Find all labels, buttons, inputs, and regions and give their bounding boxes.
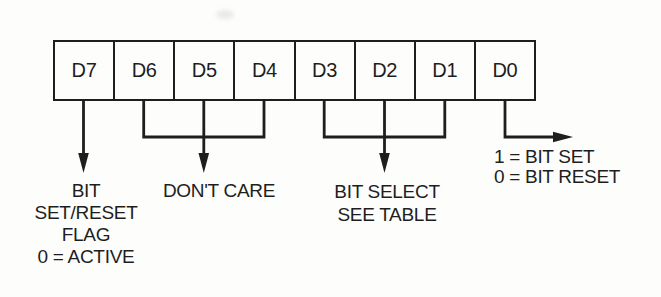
register-cell-d1: D1 — [416, 42, 476, 99]
bit-register-diagram: D7 D6 D5 D4 D3 D2 D1 D0 BIT SET/RESET FL… — [0, 0, 661, 297]
d7-arrowhead-icon — [78, 153, 89, 173]
bit-select-label: BIT SELECT SEE TABLE — [334, 180, 439, 226]
register-cell-d0: D0 — [476, 42, 534, 99]
bit-select-arrowhead-icon — [379, 153, 390, 173]
flag-label-line: BIT — [35, 180, 138, 202]
register-box: D7 D6 D5 D4 D3 D2 D1 D0 — [53, 40, 536, 101]
bit-select-label-line: BIT SELECT — [334, 180, 439, 203]
flag-label-line: FLAG — [35, 224, 138, 246]
dont-care-label-line: DON'T CARE — [163, 180, 275, 202]
bit-set-reset-flag-label: BIT SET/RESET FLAG 0 = ACTIVE — [35, 180, 138, 268]
register-cell-d3: D3 — [296, 42, 356, 99]
bit-value-legend: 1 = BIT SET 0 = BIT RESET — [494, 147, 620, 187]
dont-care-label: DON'T CARE — [163, 180, 275, 202]
scan-smudge-artifact — [216, 10, 234, 19]
bit-select-label-line: SEE TABLE — [334, 203, 439, 226]
bit-value-legend-line: 0 = BIT RESET — [494, 167, 620, 187]
d0-arrowhead-icon — [553, 132, 573, 143]
bit-value-legend-line: 1 = BIT SET — [494, 147, 620, 167]
register-cell-d4: D4 — [235, 42, 295, 99]
d3-d1-bracket-line — [324, 100, 445, 137]
register-cell-d2: D2 — [356, 42, 416, 99]
register-cell-d6: D6 — [115, 42, 175, 99]
register-cell-d5: D5 — [175, 42, 235, 99]
d6-d4-bracket-line — [144, 100, 264, 137]
register-cell-d7: D7 — [55, 42, 115, 99]
d0-arrow-line — [505, 100, 556, 137]
flag-label-line: 0 = ACTIVE — [35, 246, 138, 268]
flag-label-line: SET/RESET — [35, 202, 138, 224]
dont-care-arrowhead-icon — [199, 153, 210, 173]
